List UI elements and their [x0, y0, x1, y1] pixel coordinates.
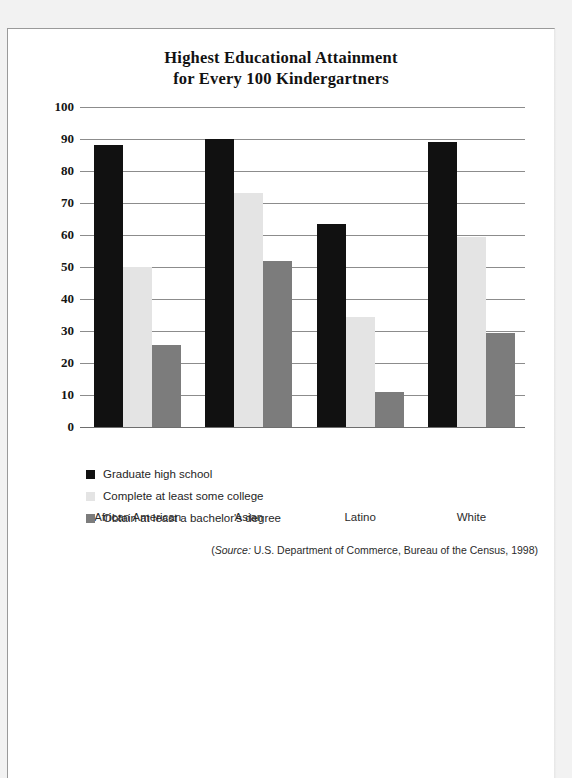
legend-item: Graduate high school: [86, 463, 416, 485]
source-detail: U.S. Department of Commerce, Bureau of t…: [251, 544, 538, 556]
y-axis-tick-100: 100: [40, 99, 74, 115]
chart-title: Highest Educational Attainment for Every…: [8, 47, 554, 89]
y-axis-tick-30: 30: [40, 323, 74, 339]
bar: [234, 193, 263, 427]
chart-legend: Graduate high schoolComplete at least so…: [86, 463, 416, 529]
bar: [94, 145, 123, 427]
bar: [486, 333, 515, 427]
bar-group: [428, 107, 515, 427]
y-axis-tick-50: 50: [40, 259, 74, 275]
x-axis-category-label: White: [398, 511, 545, 523]
y-axis-tick-80: 80: [40, 163, 74, 179]
y-axis: 0102030405060708090100: [30, 107, 74, 427]
bar-group: [205, 107, 292, 427]
bar: [428, 142, 457, 427]
y-axis-tick-10: 10: [40, 387, 74, 403]
y-axis-tick-40: 40: [40, 291, 74, 307]
legend-label: Graduate high school: [103, 468, 212, 481]
legend-swatch-icon: [86, 514, 95, 523]
bar: [375, 392, 404, 427]
chart-title-line-1: Highest Educational Attainment: [8, 47, 554, 68]
legend-swatch-icon: [86, 470, 95, 479]
legend-swatch-icon: [86, 492, 95, 501]
bar: [152, 345, 181, 427]
bar-group: [317, 107, 404, 427]
legend-item: Obtain at least a bachelor's degree: [86, 507, 416, 529]
source-note: (Source: U.S. Department of Commerce, Bu…: [8, 544, 538, 556]
bar: [263, 261, 292, 427]
chart-figure: Highest Educational Attainment for Every…: [8, 29, 554, 777]
legend-label: Complete at least some college: [103, 490, 263, 503]
y-axis-tick-20: 20: [40, 355, 74, 371]
source-label: Source:: [215, 544, 251, 556]
bar: [457, 237, 486, 427]
y-axis-tick-0: 0: [40, 419, 74, 435]
bar-group: [94, 107, 181, 427]
legend-item: Complete at least some college: [86, 485, 416, 507]
bar: [205, 139, 234, 427]
y-axis-tick-60: 60: [40, 227, 74, 243]
bar: [317, 224, 346, 427]
y-axis-tick-90: 90: [40, 131, 74, 147]
plot-area: African AmericanAsianLatinoWhite: [80, 107, 525, 427]
axis-baseline: [80, 427, 525, 428]
y-axis-tick-70: 70: [40, 195, 74, 211]
bar: [346, 317, 375, 427]
bar: [123, 267, 152, 427]
chart-title-line-2: for Every 100 Kindergartners: [8, 68, 554, 89]
legend-label: Obtain at least a bachelor's degree: [103, 512, 281, 525]
